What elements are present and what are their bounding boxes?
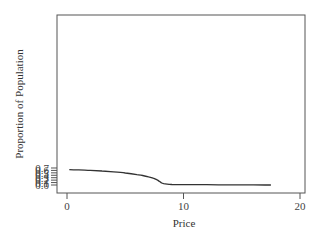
y-axis-label: Proportion of Population [13, 49, 25, 159]
plot-frame [57, 15, 305, 193]
y-tick-label: 0.7 [35, 162, 49, 174]
chart: 0.00.10.20.30.40.50.60.7 01020 Price Pro… [0, 0, 320, 238]
x-axis-label: Price [173, 217, 196, 229]
x-tick-label: 20 [295, 200, 307, 212]
x-tick-label: 10 [178, 200, 190, 212]
y-axis-ticks: 0.00.10.20.30.40.50.60.7 [35, 162, 57, 191]
data-line [69, 170, 271, 185]
x-axis-ticks: 01020 [64, 193, 306, 212]
x-tick-label: 0 [64, 200, 70, 212]
